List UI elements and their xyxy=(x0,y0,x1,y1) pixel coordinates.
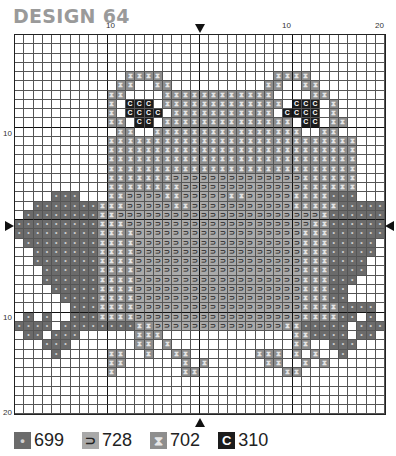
stitch-cell-728: ⊃ xyxy=(191,239,200,248)
empty-cell xyxy=(311,340,320,349)
stitch-cell-728: ⊃ xyxy=(163,202,172,211)
stitch-cell-728: ⊃ xyxy=(237,285,246,294)
stitch-cell-699: • xyxy=(320,331,329,340)
stitch-cell-702: ⧗ xyxy=(274,118,283,127)
empty-cell xyxy=(302,387,311,396)
empty-cell xyxy=(43,303,52,312)
empty-cell xyxy=(135,396,144,405)
empty-cell xyxy=(219,368,228,377)
empty-cell xyxy=(89,359,98,368)
stitch-cell-702: ⧗ xyxy=(256,146,265,155)
empty-cell xyxy=(348,387,357,396)
stitch-cell-702: ⧗ xyxy=(191,146,200,155)
empty-cell xyxy=(43,377,52,386)
stitch-cell-728: ⊃ xyxy=(135,303,144,312)
empty-cell xyxy=(89,146,98,155)
empty-cell xyxy=(228,54,237,63)
stitch-cell-702: ⧗ xyxy=(191,109,200,118)
stitch-cell-702: ⧗ xyxy=(228,128,237,137)
stitch-cell-728: ⊃ xyxy=(145,266,154,275)
empty-cell xyxy=(311,128,320,137)
empty-cell xyxy=(163,387,172,396)
empty-cell xyxy=(52,405,61,414)
stitch-cell-728: ⊃ xyxy=(283,239,292,248)
empty-cell xyxy=(98,359,107,368)
stitch-cell-728: ⊃ xyxy=(274,220,283,229)
empty-cell xyxy=(265,331,274,340)
empty-cell xyxy=(293,118,302,127)
stitch-cell-699: • xyxy=(43,340,52,349)
stitch-cell-702: ⧗ xyxy=(320,174,329,183)
stitch-cell-728: ⊃ xyxy=(219,239,228,248)
stitch-cell-728: ⊃ xyxy=(145,211,154,220)
stitch-cell-699: • xyxy=(71,202,80,211)
empty-cell xyxy=(24,183,33,192)
stitch-cell-728: ⊃ xyxy=(256,248,265,257)
empty-cell xyxy=(209,377,218,386)
stitch-cell-702: ⧗ xyxy=(339,146,348,155)
stitch-cell-728: ⊃ xyxy=(265,257,274,266)
stitch-cell-728: ⊃ xyxy=(172,266,181,275)
empty-cell xyxy=(34,137,43,146)
stitch-cell-702: ⧗ xyxy=(293,137,302,146)
stitch-cell-728: ⊃ xyxy=(283,276,292,285)
empty-cell xyxy=(219,377,228,386)
stitch-cell-702: ⧗ xyxy=(320,257,329,266)
stitch-cell-728: ⊃ xyxy=(145,257,154,266)
stitch-cell-702: ⧗ xyxy=(108,276,117,285)
stitch-cell-699: • xyxy=(52,257,61,266)
empty-cell xyxy=(367,155,376,164)
empty-cell xyxy=(61,54,70,63)
stitch-cell-702: ⧗ xyxy=(311,137,320,146)
empty-cell xyxy=(71,396,80,405)
stitch-cell-702: ⧗ xyxy=(182,146,191,155)
empty-cell xyxy=(98,350,107,359)
empty-cell xyxy=(15,155,24,164)
empty-cell xyxy=(172,331,181,340)
stitch-cell-728: ⊃ xyxy=(191,313,200,322)
legend-label: 310 xyxy=(238,430,268,451)
stitch-cell-702: ⧗ xyxy=(302,266,311,275)
empty-cell xyxy=(274,405,283,414)
stitch-cell-728: ⊃ xyxy=(209,239,218,248)
empty-cell xyxy=(61,350,70,359)
stitch-cell-728: ⊃ xyxy=(219,183,228,192)
stitch-cell-699: • xyxy=(52,350,61,359)
empty-cell xyxy=(15,405,24,414)
empty-cell xyxy=(357,183,366,192)
stitch-cell-702: ⧗ xyxy=(145,137,154,146)
empty-cell xyxy=(34,350,43,359)
empty-cell xyxy=(283,100,292,109)
stitch-cell-728: ⊃ xyxy=(256,192,265,201)
stitch-cell-702: ⧗ xyxy=(191,118,200,127)
empty-cell xyxy=(24,109,33,118)
stitch-cell-728: ⊃ xyxy=(182,313,191,322)
empty-cell xyxy=(283,331,292,340)
stitch-cell-702: ⧗ xyxy=(330,155,339,164)
empty-cell xyxy=(237,368,246,377)
empty-cell xyxy=(24,359,33,368)
stitch-cell-702: ⧗ xyxy=(98,257,107,266)
stitch-cell-702: ⧗ xyxy=(283,146,292,155)
stitch-cell-728: ⊃ xyxy=(209,276,218,285)
empty-cell xyxy=(24,202,33,211)
stitch-cell-702: ⧗ xyxy=(145,331,154,340)
empty-cell xyxy=(376,54,385,63)
stitch-cell-728: ⊃ xyxy=(311,211,320,220)
stitch-cell-702: ⧗ xyxy=(172,128,181,137)
empty-cell xyxy=(348,81,357,90)
stitch-cell-728: ⊃ xyxy=(145,239,154,248)
stitch-cell-702: ⧗ xyxy=(246,91,255,100)
stitch-cell-702: ⧗ xyxy=(117,118,126,127)
stitch-cell-702: ⧗ xyxy=(311,266,320,275)
legend-swatch-icon: ⊃ xyxy=(82,432,99,449)
empty-cell xyxy=(228,340,237,349)
empty-cell xyxy=(108,331,117,340)
empty-cell xyxy=(256,377,265,386)
empty-cell xyxy=(126,331,135,340)
empty-cell xyxy=(34,405,43,414)
stitch-cell-702: ⧗ xyxy=(154,165,163,174)
stitch-grid: ⧗⧗⧗⧗⧗⧗⧗⧗⧗⧗⧗⧗⧗⧗⧗⧗⧗⧗⧗⧗⧗⧗⧗⧗⧗⧗⧗⧗⧗⧗⧗⧗⧗CCC⧗⧗⧗⧗… xyxy=(14,34,386,415)
empty-cell xyxy=(163,72,172,81)
empty-cell xyxy=(80,128,89,137)
